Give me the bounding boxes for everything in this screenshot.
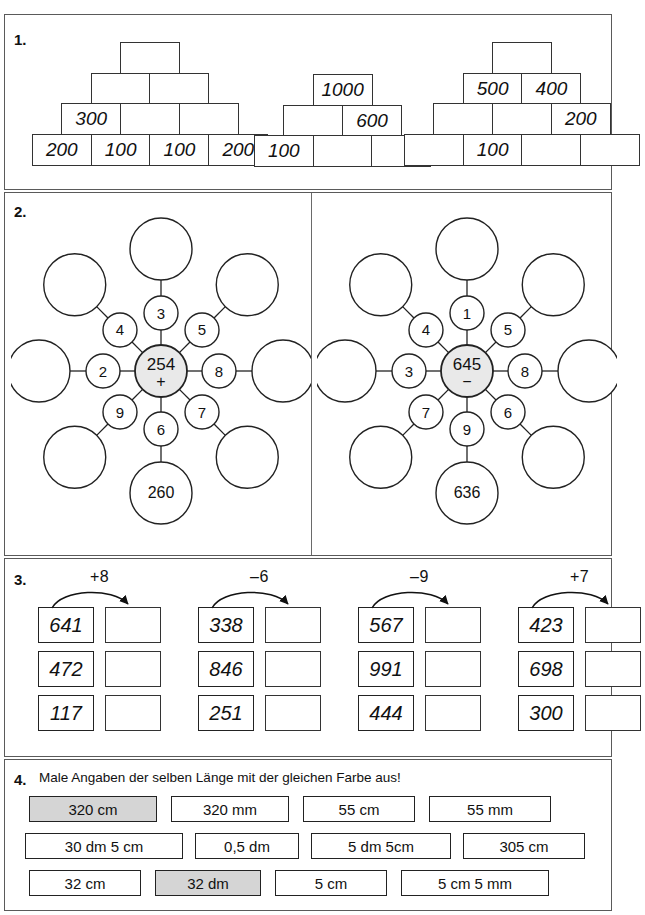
pyramid-cell-value[interactable]: 200 (32, 134, 92, 166)
chain-row: 444 (358, 695, 498, 731)
chain-result-input[interactable] (105, 607, 161, 643)
chain-arrow-icon (198, 587, 338, 607)
task-2-section: 2. 254+35876260924 645−15869636734 (4, 192, 612, 556)
chain-row: 641 (38, 607, 178, 643)
chain-start-value: 846 (198, 651, 254, 687)
pyramid-cell-empty[interactable] (433, 103, 493, 135)
length-box[interactable]: 0,5 dm (195, 833, 299, 859)
page-header-ghost-text (0, 0, 616, 14)
arrow-chain-column: +7423698300 (518, 567, 645, 739)
chain-row: 300 (518, 695, 645, 731)
task-1-number: 1. (14, 31, 27, 48)
pyramid-cell-empty[interactable] (283, 105, 343, 137)
chain-arrow-icon (38, 587, 178, 607)
chain-row: 698 (518, 651, 645, 687)
chain-row: 423 (518, 607, 645, 643)
length-box[interactable]: 55 cm (303, 796, 415, 822)
pyramid-cell-empty[interactable] (521, 134, 581, 166)
chain-result-input[interactable] (265, 695, 321, 731)
pyramid-cell-empty[interactable] (404, 134, 464, 166)
arrow-chain-column: –6338846251 (198, 567, 338, 739)
chain-result-input[interactable] (585, 607, 641, 643)
length-box[interactable]: 5 cm (275, 870, 387, 896)
pyramid-cell-value[interactable]: 100 (149, 134, 209, 166)
length-box[interactable]: 32 cm (29, 870, 141, 896)
chain-start-value: 698 (518, 651, 574, 687)
wheel-graphic (11, 211, 311, 541)
length-box[interactable]: 5 cm 5 mm (401, 870, 549, 896)
pyramid-cell-empty[interactable] (120, 42, 180, 74)
pyramid-row: 300 (33, 105, 268, 136)
chain-row: 472 (38, 651, 178, 687)
pyramid-row: 500400 (405, 74, 640, 105)
chain-row: 991 (358, 651, 498, 687)
chain-operation-label: +8 (38, 567, 161, 587)
chain-start-value: 117 (38, 695, 94, 731)
pyramid-cell-value[interactable]: 100 (463, 134, 523, 166)
chain-result-input[interactable] (425, 695, 481, 731)
pyramid-cell-empty[interactable] (91, 73, 151, 105)
length-box-shaded[interactable]: 320 cm (29, 796, 157, 822)
chain-result-input[interactable] (265, 651, 321, 687)
pyramid-cell-empty[interactable] (492, 103, 552, 135)
chain-arrow-icon (358, 587, 498, 607)
length-box[interactable]: 55 mm (429, 796, 551, 822)
number-wheel-left: 254+35876260924 (11, 211, 311, 541)
pyramid-cell-value[interactable]: 100 (254, 135, 314, 167)
chain-row: 567 (358, 607, 498, 643)
arrow-chain-column: +8641472117 (38, 567, 178, 739)
chain-result-input[interactable] (585, 695, 641, 731)
chain-result-input[interactable] (265, 607, 321, 643)
pyramid-row (33, 74, 268, 105)
chain-start-value: 300 (518, 695, 574, 731)
task-4-instruction: Male Angaben der selben Länge mit der gl… (39, 770, 401, 785)
pyramid-cell-value[interactable]: 400 (521, 73, 581, 105)
chain-row: 846 (198, 651, 338, 687)
chain-row: 338 (198, 607, 338, 643)
pyramid-cell-empty[interactable] (120, 103, 180, 135)
chain-start-value: 641 (38, 607, 94, 643)
number-pyramid-3: 500400200100 (405, 43, 640, 166)
task-3-section: 3. +8641472117–6338846251–9567991444+742… (4, 558, 612, 757)
wheel-graphic (317, 211, 617, 541)
task-3-number: 3. (14, 571, 27, 588)
length-box[interactable]: 320 mm (171, 796, 289, 822)
length-box-shaded[interactable]: 32 dm (155, 870, 261, 896)
chain-start-value: 991 (358, 651, 414, 687)
chain-result-input[interactable] (425, 607, 481, 643)
chain-result-input[interactable] (425, 651, 481, 687)
chain-arrow-icon (518, 587, 645, 607)
length-box[interactable]: 305 cm (463, 833, 585, 859)
chain-result-input[interactable] (105, 651, 161, 687)
pyramid-cell-value[interactable]: 200 (551, 103, 611, 135)
length-box-row: 320 cm320 mm55 cm55 mm (29, 796, 551, 822)
length-box[interactable]: 30 dm 5 cm (25, 833, 183, 859)
pyramid-cell-value[interactable]: 600 (342, 105, 402, 137)
number-pyramid-1: 300200100100200 (33, 43, 268, 166)
pyramid-cell-empty[interactable] (492, 42, 552, 74)
length-box-row: 30 dm 5 cm0,5 dm5 dm 5cm305 cm (25, 833, 585, 859)
pyramid-row: 200100100200 (33, 135, 268, 166)
arrow-chain-column: –9567991444 (358, 567, 498, 739)
chain-start-value: 567 (358, 607, 414, 643)
pyramid-cell-value[interactable]: 1000 (313, 74, 373, 106)
chain-result-input[interactable] (105, 695, 161, 731)
pyramid-cell-empty[interactable] (580, 134, 640, 166)
task-4-section: 4. Male Angaben der selben Länge mit der… (4, 759, 612, 911)
pyramid-cell-value[interactable]: 300 (61, 103, 121, 135)
task-1-section: 1. 300200100100200 1000600100 5004002001… (4, 14, 612, 190)
chain-result-input[interactable] (585, 651, 641, 687)
chain-row: 251 (198, 695, 338, 731)
pyramid-cell-value[interactable]: 500 (463, 73, 523, 105)
pyramid-cell-empty[interactable] (179, 103, 239, 135)
pyramid-cell-empty[interactable] (149, 73, 209, 105)
pyramid-cell-empty[interactable] (313, 135, 373, 167)
length-box[interactable]: 5 dm 5cm (311, 833, 451, 859)
chain-start-value: 338 (198, 607, 254, 643)
pyramid-row: 200 (405, 105, 640, 136)
pyramid-cell-value[interactable]: 100 (91, 134, 151, 166)
chain-operation-label: –9 (358, 567, 481, 587)
pyramid-row (33, 43, 268, 74)
number-wheel-right: 645−15869636734 (317, 211, 617, 541)
chain-start-value: 472 (38, 651, 94, 687)
